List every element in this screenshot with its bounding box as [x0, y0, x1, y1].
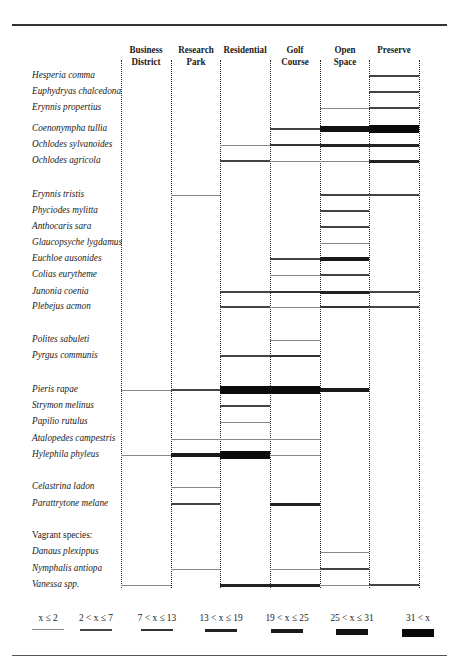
abundance-bar: [369, 125, 419, 133]
column-header: Golf Course: [274, 44, 317, 68]
abundance-bar: [220, 306, 270, 308]
abundance-bar: [220, 355, 270, 357]
abundance-bar: [171, 439, 220, 440]
species-label: Euphydryas chalcedona: [32, 85, 121, 97]
species-label: Hesperia comma: [32, 69, 95, 81]
species-label: Pyrgus communis: [32, 349, 98, 361]
column-header: Residential: [224, 44, 267, 56]
species-label: Parattrytone melane: [32, 497, 108, 509]
legend-swatch: [205, 629, 237, 632]
abundance-bar: [320, 126, 369, 132]
legend-label: 31 < x: [393, 611, 444, 623]
legend-item: 13 < x ≤ 19: [191, 611, 251, 632]
column-header: Preserve: [373, 44, 416, 56]
abundance-bar: [320, 144, 369, 147]
legend-item: 19 < x ≤ 25: [257, 611, 317, 633]
top-rule: [12, 24, 447, 26]
species-label: Strymon melinus: [32, 399, 94, 411]
abundance-bar: [171, 195, 220, 196]
abundance-bar: [320, 243, 369, 244]
abundance-bar: [369, 75, 419, 77]
abundance-bar: [220, 451, 270, 459]
abundance-bar: [270, 258, 320, 260]
abundance-bar: [270, 439, 320, 440]
abundance-bar: [320, 108, 369, 109]
legend-label: 19 < x ≤ 25: [262, 611, 313, 623]
abundance-bar: [320, 257, 369, 261]
legend-item: 2 < x ≤ 7: [66, 611, 126, 631]
abundance-bar: [369, 584, 419, 586]
species-label: Nymphalis antiopa: [32, 562, 102, 574]
abundance-bar: [270, 584, 320, 587]
abundance-bar: [270, 569, 320, 570]
column-divider: [320, 60, 321, 588]
abundance-bar: [171, 503, 220, 505]
abundance-bar: [320, 194, 369, 196]
legend-label: 13 < x ≤ 19: [196, 611, 247, 623]
abundance-bar: [220, 439, 270, 440]
legend-swatch: [141, 629, 173, 631]
column-divider: [369, 60, 370, 588]
abundance-bar: [320, 585, 369, 586]
legend-label: 25 < x ≤ 31: [327, 611, 378, 623]
abundance-bar: [320, 568, 369, 570]
abundance-bar: [220, 160, 270, 162]
species-label: Danaus plexippus: [32, 545, 98, 557]
abundance-bar: [171, 389, 220, 391]
species-label: Plebejus acmon: [32, 300, 91, 312]
abundance-bar: [270, 386, 320, 394]
abundance-bar: [220, 405, 270, 407]
abundance-bar: [270, 455, 320, 456]
abundance-bar: [220, 422, 270, 423]
abundance-bar: [369, 107, 419, 109]
column-header: BusinessDistrict: [125, 44, 168, 68]
abundance-bar: [320, 291, 369, 294]
legend-swatch: [402, 629, 434, 637]
column-divider: [121, 60, 122, 588]
abundance-bar: [270, 291, 320, 293]
abundance-bar: [171, 453, 220, 457]
abundance-bar: [220, 386, 270, 394]
abundance-bar: [369, 91, 419, 93]
abundance-bar: [171, 569, 220, 570]
species-label: Glaucopsyche lygdamus: [32, 236, 122, 248]
legend-label: 7 < x ≤ 13: [132, 611, 183, 623]
abundance-bar: [171, 487, 220, 488]
species-label: Junonia coenia: [32, 285, 89, 297]
abundance-bar: [270, 275, 320, 276]
species-label: Anthocaris sara: [32, 220, 91, 232]
abundance-bar: [320, 210, 369, 212]
species-label: Atalopedes campestris: [32, 432, 115, 444]
legend-swatch: [80, 629, 112, 631]
column-divider: [171, 60, 172, 588]
abundance-bar: [270, 144, 320, 146]
abundance-bar: [320, 552, 369, 553]
legend-swatch: [271, 629, 303, 633]
species-label: Erynnis tristis: [32, 188, 84, 200]
species-label: Coenonympha tullia: [32, 122, 107, 134]
abundance-bar: [121, 585, 171, 586]
species-label: Colias eurytheme: [32, 268, 97, 280]
column-divider: [220, 60, 221, 588]
bottom-rule: [12, 655, 447, 656]
species-label: Polites sabuleti: [32, 333, 89, 345]
species-label: Phyciodes mylitta: [32, 204, 98, 216]
species-label: Ochlodes sylvanoides: [32, 138, 112, 150]
species-label: Erynnis propertius: [32, 101, 101, 113]
species-label: Papilio rutulus: [32, 415, 88, 427]
abundance-bar: [320, 388, 369, 392]
column-divider: [419, 60, 420, 588]
abundance-bar: [270, 307, 320, 308]
column-header: ResearchPark: [174, 44, 217, 68]
abundance-bar: [270, 128, 320, 130]
species-label: Hylephila phyleus: [32, 448, 99, 460]
column-divider: [270, 60, 271, 588]
legend-item: 31 < x: [388, 611, 448, 637]
abundance-bar: [220, 145, 270, 146]
abundance-bar: [320, 306, 369, 308]
legend-swatch: [32, 629, 64, 630]
species-label: Vanessa spp.: [32, 578, 79, 590]
abundance-bar: [369, 306, 419, 308]
column-header: Open Space: [323, 44, 366, 68]
abundance-bar: [369, 194, 419, 196]
